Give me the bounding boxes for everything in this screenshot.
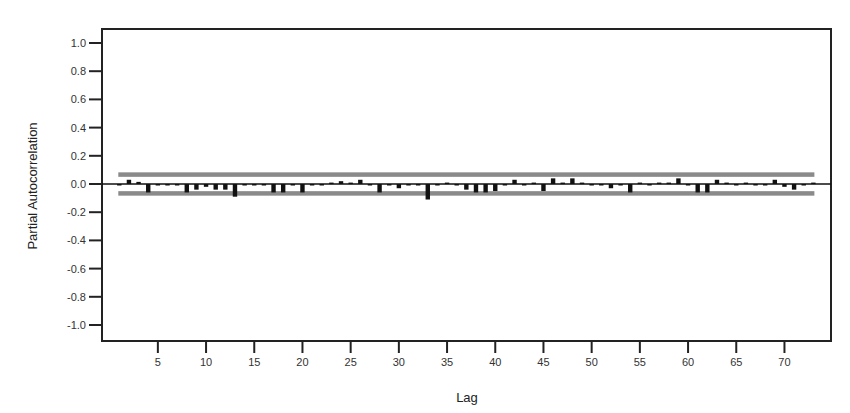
pacf-bar <box>609 184 613 188</box>
pacf-chart: 1.00.80.60.40.20.0-0.2-0.4-0.6-0.8-1.0 5… <box>0 0 850 413</box>
y-tick-label: 0.2 <box>71 150 86 162</box>
pacf-bar <box>474 184 478 192</box>
pacf-bar <box>156 184 160 186</box>
y-tick-label: 0.4 <box>71 122 86 134</box>
pacf-bar <box>377 184 381 192</box>
y-tick-label: 0.0 <box>71 178 86 190</box>
pacf-bar <box>320 184 324 186</box>
pacf-bar <box>744 183 748 185</box>
pacf-bar <box>416 184 420 186</box>
pacf-bar <box>194 184 198 190</box>
x-tick-label: 35 <box>441 356 453 368</box>
pacf-bar <box>753 184 757 186</box>
pacf-bar <box>281 184 285 192</box>
y-tick-label: 0.8 <box>71 65 86 77</box>
pacf-bar <box>541 184 545 191</box>
pacf-bar <box>638 183 642 185</box>
pacf-bar <box>406 184 410 186</box>
pacf-bar <box>696 184 700 192</box>
x-tick-label: 60 <box>682 356 694 368</box>
y-tick-label: 1.0 <box>71 37 86 49</box>
pacf-bar <box>493 184 497 191</box>
pacf-bar <box>503 184 507 186</box>
pacf-bar <box>252 184 256 186</box>
pacf-bar <box>532 183 536 185</box>
pacf-bar <box>214 184 218 190</box>
x-tick-label: 25 <box>345 356 357 368</box>
pacf-bar <box>724 183 728 185</box>
pacf-bar <box>300 184 304 192</box>
y-tick-label: -0.6 <box>67 263 86 275</box>
pacf-bar <box>792 184 796 190</box>
x-tick-label: 55 <box>634 356 646 368</box>
pacf-bar <box>734 184 738 186</box>
pacf-bar <box>715 180 719 184</box>
x-tick-label: 5 <box>155 356 161 368</box>
y-tick-label: -0.2 <box>67 206 86 218</box>
lower-confidence-limit <box>118 191 814 196</box>
pacf-bar <box>262 184 266 186</box>
x-tick-label: 45 <box>537 356 549 368</box>
pacf-bar <box>175 184 179 186</box>
x-tick-label: 40 <box>489 356 501 368</box>
x-tick-label: 65 <box>730 356 742 368</box>
y-axis-title: Partial Autocorrelation <box>25 122 40 249</box>
y-axis: 1.00.80.60.40.20.0-0.2-0.4-0.6-0.8-1.0 <box>67 37 102 331</box>
pacf-bar <box>233 184 237 197</box>
pacf-bar <box>676 178 680 184</box>
pacf-bar <box>628 184 632 192</box>
x-tick-label: 15 <box>248 356 260 368</box>
x-axis-title: Lag <box>456 390 478 405</box>
pacf-bar <box>310 184 314 186</box>
pacf-bar <box>570 178 574 184</box>
pacf-bar <box>136 182 140 184</box>
pacf-bar <box>368 184 372 186</box>
pacf-bar <box>561 183 565 185</box>
pacf-bar <box>426 184 430 200</box>
x-tick-label: 10 <box>200 356 212 368</box>
pacf-bar <box>146 184 150 192</box>
y-tick-label: -0.4 <box>67 234 86 246</box>
pacf-bar <box>580 183 584 185</box>
x-axis: 510152025303540455055606570 <box>155 341 791 368</box>
pacf-bar <box>185 184 189 192</box>
pacf-bar <box>329 183 333 185</box>
pacf-bar <box>773 180 777 184</box>
pacf-bar <box>127 180 131 184</box>
pacf-bar <box>455 184 459 186</box>
pacf-bar <box>667 183 671 185</box>
pacf-bar <box>811 183 815 185</box>
pacf-bar <box>397 184 401 188</box>
pacf-bar <box>204 184 208 187</box>
pacf-bar <box>117 184 121 186</box>
pacf-bar <box>599 184 603 186</box>
x-tick-label: 30 <box>393 356 405 368</box>
pacf-bar <box>657 183 661 185</box>
y-tick-label: -0.8 <box>67 291 86 303</box>
y-tick-label: -1.0 <box>67 319 86 331</box>
pacf-bar <box>242 184 246 186</box>
pacf-bar <box>512 180 516 184</box>
pacf-bar <box>223 184 227 190</box>
pacf-bar <box>802 184 806 186</box>
pacf-bar <box>686 184 690 186</box>
pacf-bar <box>483 184 487 192</box>
pacf-bar <box>358 180 362 184</box>
pacf-bar <box>339 181 343 184</box>
pacf-bar <box>387 184 391 186</box>
pacf-bar <box>271 184 275 192</box>
pacf-bar <box>445 183 449 185</box>
pacf-bar <box>763 184 767 186</box>
pacf-bar <box>348 183 352 185</box>
x-tick-label: 70 <box>778 356 790 368</box>
pacf-bar <box>165 184 169 186</box>
pacf-bar <box>705 184 709 192</box>
pacf-bar <box>589 184 593 186</box>
pacf-bar <box>782 184 786 187</box>
pacf-bar <box>618 184 622 186</box>
pacf-bar <box>464 184 468 190</box>
pacf-bar <box>435 184 439 186</box>
x-tick-label: 20 <box>296 356 308 368</box>
y-tick-label: 0.6 <box>71 93 86 105</box>
pacf-bar <box>522 184 526 186</box>
